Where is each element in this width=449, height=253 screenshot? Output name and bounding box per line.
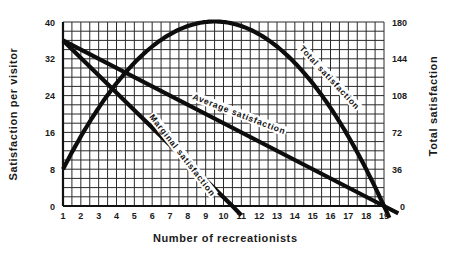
y-tick-label: 24 [45, 91, 55, 101]
x-tick-label: 16 [325, 211, 335, 221]
y2-tick-label: 0 [400, 202, 405, 212]
x-tick-label: 5 [132, 211, 137, 221]
x-tick-label: 10 [218, 211, 228, 221]
y2-tick-label: 108 [392, 91, 407, 101]
y2-tick-label: 36 [392, 165, 402, 175]
x-tick-label: 8 [185, 211, 190, 221]
x-tick-label: 13 [272, 211, 282, 221]
x-tick-label: 11 [237, 211, 247, 221]
y-axis-title: Satisfaction per visitor [7, 47, 19, 180]
y2-tick-label: 72 [392, 128, 402, 138]
y2-tick-label: 144 [392, 54, 407, 64]
x-tick-label: 1 [60, 211, 65, 221]
right-axis-ticks: 03672108144180 [392, 18, 407, 212]
x-tick-label: 14 [290, 211, 300, 221]
x-axis-ticks: 12345678910111213141516171819 [60, 211, 389, 221]
x-tick-label: 9 [203, 211, 208, 221]
y-tick-label: 16 [45, 128, 55, 138]
y2-axis-title: Total satisfaction [427, 56, 439, 156]
y-tick-label: 8 [50, 165, 55, 175]
x-tick-label: 19 [379, 211, 389, 221]
y-tick-label: 40 [45, 18, 55, 28]
y2-tick-label: 180 [392, 18, 407, 28]
x-tick-label: 15 [308, 211, 318, 221]
satisfaction-chart: Total satisfactionAverage satisfactionMa… [0, 0, 449, 253]
x-tick-label: 3 [96, 211, 101, 221]
x-tick-label: 12 [254, 211, 264, 221]
x-tick-label: 7 [167, 211, 172, 221]
marginal-satisfaction-label: Marginal satisfaction [147, 112, 217, 198]
y-tick-label: 32 [45, 54, 55, 64]
x-axis-title: Number of recreationists [153, 232, 298, 244]
x-tick-label: 6 [150, 211, 155, 221]
x-tick-label: 2 [78, 211, 83, 221]
x-tick-label: 4 [114, 211, 119, 221]
left-axis-ticks: 0816243240 [45, 18, 55, 212]
total-satisfaction-curve [63, 22, 389, 218]
y-tick-label: 0 [50, 202, 55, 212]
x-tick-label: 17 [343, 211, 353, 221]
x-tick-label: 18 [361, 211, 371, 221]
